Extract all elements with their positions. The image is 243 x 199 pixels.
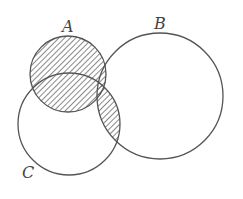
label-c: C: [22, 163, 34, 182]
label-a: A: [60, 17, 74, 36]
label-b: B: [153, 14, 166, 33]
venn-diagram: A B C: [0, 0, 243, 199]
circle-b: [97, 33, 223, 159]
